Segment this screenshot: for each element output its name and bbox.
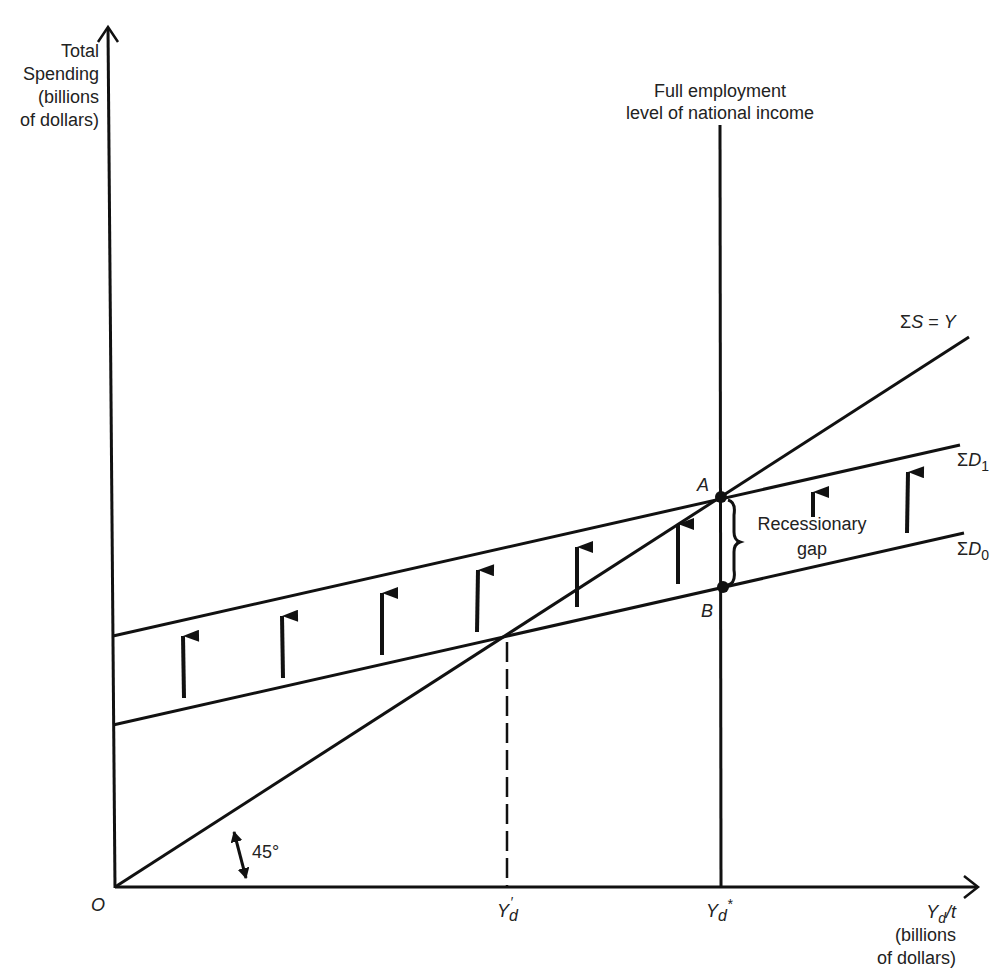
sum-d1-label: ΣD1	[957, 450, 989, 474]
x-axis-label-line: (billions	[895, 925, 956, 945]
up-arrow-icon	[907, 472, 908, 533]
angle-double-arrow-icon	[234, 832, 246, 878]
y-axis-label-line: Total	[61, 41, 99, 61]
demand-shift-arrows	[183, 472, 908, 698]
yd-star-label: Yd*	[706, 896, 733, 924]
yd-prime-label: Yd′	[497, 894, 519, 924]
up-arrow-icon	[282, 616, 283, 678]
y-axis-label: Total Spending (billions of dollars)	[20, 41, 99, 130]
recessionary-gap-brace	[728, 500, 740, 585]
sum-d0-label: ΣD0	[957, 539, 989, 563]
recessionary-gap-label-line: gap	[797, 539, 827, 559]
point-a-marker	[715, 491, 727, 503]
x-axis-label-line: of dollars)	[877, 948, 956, 968]
y-axis-line	[108, 28, 115, 888]
x-axis	[115, 876, 978, 898]
sum-d1-line	[113, 445, 960, 636]
y-axis	[98, 27, 118, 888]
recessionary-gap-diagram: Total Spending (billions of dollars) Yd/…	[0, 0, 1007, 979]
x-axis-label: Yd/t (billions of dollars)	[877, 902, 957, 968]
up-arrow-icon	[477, 570, 478, 632]
full-employment-label-line: Full employment	[654, 81, 786, 101]
sum-d0-line	[113, 533, 964, 725]
y-axis-label-line: of dollars)	[20, 110, 99, 130]
up-arrow-icon	[183, 636, 184, 698]
recessionary-gap-label: Recessionary gap	[757, 514, 866, 559]
full-employment-line	[720, 125, 721, 887]
x-axis-variable: Yd/t	[926, 902, 957, 926]
full-employment-label: Full employment level of national income	[626, 81, 814, 123]
full-employment-label-line: level of national income	[626, 103, 814, 123]
y-axis-label-line: Spending	[23, 64, 99, 84]
sum-s-equals-y-label: ΣS = Y	[900, 312, 958, 332]
point-b-marker	[717, 581, 729, 593]
sum-s-equals-y-line	[115, 337, 969, 887]
point-b-label: B	[701, 601, 713, 621]
point-a-label: A	[696, 475, 709, 495]
angle-label: 45°	[252, 842, 279, 862]
origin-label: O	[91, 895, 105, 915]
y-axis-label-line: (billions	[38, 87, 99, 107]
